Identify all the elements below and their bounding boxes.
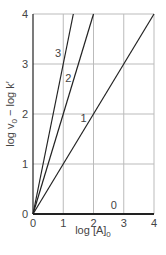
line-labels: 3210 xyxy=(55,47,117,211)
line-label-1: 1 xyxy=(80,112,86,124)
y-tick-label: 2 xyxy=(22,108,28,120)
y-tick-label: 3 xyxy=(22,58,28,70)
x-axis-title: log [A]0 xyxy=(75,224,111,239)
x-tick-label: 4 xyxy=(151,217,157,229)
chart: 0123401234 3210 log [A]0 log v0 − log k′ xyxy=(0,0,166,255)
line-label-2: 2 xyxy=(65,72,71,84)
x-tick-label: 3 xyxy=(121,217,127,229)
x-tick-label: 0 xyxy=(30,217,36,229)
y-axis-title: log v0 − log k′ xyxy=(4,81,19,147)
y-tick-label: 1 xyxy=(22,158,28,170)
line-label-3: 3 xyxy=(55,47,61,59)
tick-labels: 0123401234 xyxy=(22,8,157,229)
y-tick-label: 0 xyxy=(22,208,28,220)
x-tick-label: 1 xyxy=(60,217,66,229)
y-tick-label: 4 xyxy=(22,8,28,20)
line-label-0: 0 xyxy=(111,199,117,211)
